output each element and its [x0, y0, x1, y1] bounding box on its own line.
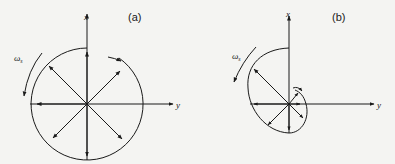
- radial-arrow-upleft: [49, 66, 87, 104]
- radial-arrow-b-downleft: [268, 104, 289, 125]
- stress-curve-b: [248, 48, 307, 133]
- x-axis-label-b: x: [285, 9, 290, 19]
- radial-arrow-upright: [87, 71, 120, 104]
- radial-arrow-b-downright: [289, 104, 303, 118]
- panel-a: [24, 14, 173, 160]
- omega-symbol-a: ωs: [14, 53, 23, 64]
- panel-label-a: (a): [128, 11, 141, 23]
- panel-label-b: (b): [332, 11, 345, 23]
- omega-symbol-b: ωs: [232, 51, 241, 62]
- arc-arrow-b: [293, 87, 302, 91]
- y-axis-label-b: y: [376, 100, 381, 110]
- figure-canvas: x y (a) ωs x y (b) ωs: [0, 0, 395, 164]
- radial-arrow-b-upleft: [254, 69, 289, 104]
- y-axis-label-a: y: [175, 100, 180, 110]
- x-axis-label-a: x: [83, 12, 88, 22]
- radial-arrow-downleft: [53, 104, 87, 138]
- panel-b: [234, 16, 374, 133]
- radial-arrow-b-upright: [289, 93, 298, 104]
- radial-arrow-downright: [87, 104, 122, 139]
- arc-arrow-a: [108, 57, 121, 61]
